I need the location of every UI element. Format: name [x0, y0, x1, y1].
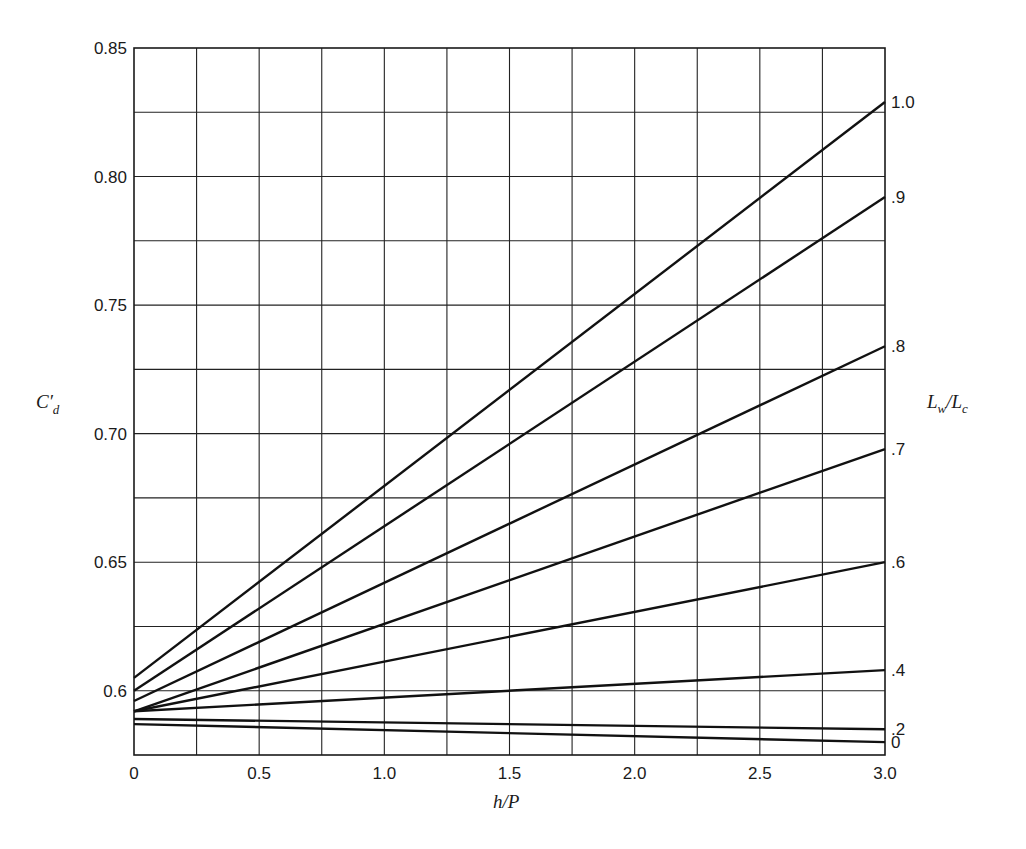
series-label-0.7: .7 — [891, 440, 905, 459]
series-label-0.4: .4 — [891, 661, 905, 680]
y-axis-label: C′d — [36, 391, 60, 417]
x-axis-ticks: 00.51.01.52.02.53.0 — [129, 764, 897, 783]
x-tick-label: 3.0 — [873, 764, 897, 783]
discharge-coefficient-chart: 00.51.01.52.02.53.0 0.60.650.700.750.800… — [0, 0, 1026, 849]
series-label-0.6: .6 — [891, 553, 905, 572]
y-tick-label: 0.6 — [103, 682, 127, 701]
y-tick-label: 0.80 — [94, 168, 127, 187]
x-tick-label: 0 — [129, 764, 138, 783]
series-label-0.8: .8 — [891, 337, 905, 356]
series-label-0.9: .9 — [891, 188, 905, 207]
y-axis-ticks: 0.60.650.700.750.800.85 — [94, 39, 127, 701]
x-tick-label: 1.5 — [498, 764, 522, 783]
right-axis-label: Lw/Lc — [926, 391, 968, 416]
x-tick-label: 2.5 — [748, 764, 772, 783]
series-label-0: 0 — [891, 733, 900, 752]
y-tick-label: 0.65 — [94, 553, 127, 572]
x-tick-label: 2.0 — [623, 764, 647, 783]
x-tick-label: 0.5 — [247, 764, 271, 783]
x-axis-label: h/P — [493, 791, 520, 812]
series-label-1.0: 1.0 — [891, 93, 915, 112]
series-labels: 1.0.9.8.7.6.4.20 — [891, 93, 915, 752]
x-tick-label: 1.0 — [373, 764, 397, 783]
y-tick-label: 0.85 — [94, 39, 127, 58]
y-tick-label: 0.75 — [94, 296, 127, 315]
y-tick-label: 0.70 — [94, 425, 127, 444]
